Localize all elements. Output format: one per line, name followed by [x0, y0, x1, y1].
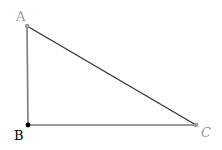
vertex-b-label: B	[14, 128, 24, 143]
edge-ac	[27, 26, 196, 125]
vertex-c-label: C	[201, 125, 211, 140]
edge-ab	[27, 26, 28, 125]
vertex-b-point	[26, 123, 31, 128]
vertex-a-label: A	[15, 9, 26, 24]
triangle-diagram: A B C	[0, 0, 222, 150]
vertex-a-point	[25, 24, 29, 28]
vertex-c-point	[194, 123, 198, 127]
